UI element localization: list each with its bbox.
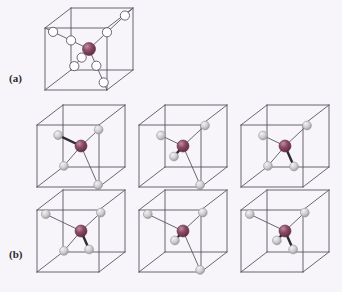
ligand-atom-gray: [94, 125, 103, 134]
ligand-atom-gray: [60, 247, 69, 256]
ligand-atom-gray: [96, 208, 105, 217]
bond-line: [183, 231, 200, 270]
bond-group: [161, 126, 205, 185]
central-atom: [279, 140, 291, 152]
ligand-atom-gray: [85, 245, 94, 254]
figure-root: (a) (b): [0, 0, 342, 292]
ligand-atom-gray: [170, 152, 179, 161]
unit-cell-diagram: [25, 188, 131, 280]
ligand-atom-gray: [273, 236, 282, 245]
bond-line: [183, 146, 200, 185]
ligand-atom-gray: [60, 162, 69, 171]
ligand-atom-gray: [290, 162, 299, 171]
bond-line: [81, 146, 98, 185]
ligand-atom-open: [99, 78, 108, 87]
bond-group: [46, 213, 101, 251]
ligand-atom-gray: [157, 131, 166, 140]
ligand-atom-open: [70, 62, 79, 71]
atom-group: [41, 208, 105, 255]
unit-cell-diagram: [229, 188, 335, 280]
panel-label-b: (b): [9, 248, 22, 260]
unit-cell-diagram: [229, 103, 335, 195]
unit-cell-diagram: [25, 103, 131, 195]
ligand-atom-open: [92, 61, 101, 70]
atom-group: [245, 208, 309, 254]
unit-cell-diagram: [127, 103, 233, 195]
ligand-atom-gray: [171, 236, 180, 245]
ligand-atom-gray: [264, 162, 273, 171]
ligand-atom-open: [120, 11, 129, 20]
unit-cell-diagram: [127, 188, 233, 280]
ligand-atom-gray: [300, 208, 309, 217]
ligand-atom-open: [102, 28, 111, 37]
ligand-atom-gray: [143, 210, 152, 219]
ligand-atom-gray: [196, 266, 205, 275]
ligand-atom-open: [66, 36, 75, 45]
ligand-atom-gray: [198, 208, 207, 217]
ligand-atom-gray: [41, 210, 50, 219]
central-atom: [75, 140, 87, 152]
bond-group: [58, 130, 98, 185]
central-atom: [75, 225, 87, 237]
ligand-atom-gray: [289, 245, 298, 254]
figure-caption-partial: [0, 283, 342, 292]
ligand-atom-gray: [303, 121, 312, 130]
ligand-atom-gray: [259, 131, 268, 140]
panel-label-a: (a): [9, 72, 22, 84]
atom-group: [157, 121, 210, 189]
ligand-atom-gray: [201, 121, 210, 130]
unit-cell-diagram: [33, 6, 139, 102]
central-atom: [177, 140, 189, 152]
ligand-atom-open: [48, 27, 57, 36]
central-atom: [177, 225, 189, 237]
central-atom: [83, 43, 96, 56]
ligand-atom-gray: [54, 131, 63, 140]
ligand-atom-gray: [245, 210, 254, 219]
central-atom: [279, 225, 291, 237]
